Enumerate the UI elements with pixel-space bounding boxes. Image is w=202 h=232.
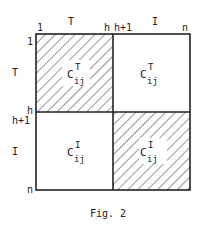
figure-caption: Fig. 2	[90, 208, 126, 219]
left-label-I: I	[12, 146, 18, 157]
block-label-sub: ij	[74, 154, 85, 164]
top-label-1: 1	[37, 22, 43, 33]
block-matrix-figure: 1 T h h+1 I n 1 T h h+1 I n C T ij C T i…	[0, 0, 202, 232]
top-label-h: h	[104, 22, 110, 33]
block-label-base: C	[67, 68, 74, 81]
left-label-T: T	[12, 67, 18, 78]
block-label-sup: T	[75, 62, 81, 72]
left-label-1: 1	[27, 36, 33, 47]
block-label-bottom-left: C I ij	[67, 140, 85, 164]
block-label-sub: ij	[147, 76, 158, 86]
top-label-n: n	[182, 22, 188, 33]
left-label-h-plus-1: h+1	[12, 115, 30, 126]
block-label-sup: T	[148, 62, 154, 72]
block-label-base: C	[67, 146, 74, 159]
top-label-T: T	[68, 16, 74, 27]
block-label-base: C	[140, 68, 147, 81]
block-label-base: C	[140, 146, 147, 159]
block-label-sub: ij	[147, 154, 158, 164]
top-label-h-plus-1: h+1	[114, 22, 132, 33]
block-label-sup: I	[75, 140, 80, 150]
top-label-I: I	[152, 16, 158, 27]
block-label-top-right: C T ij	[140, 62, 158, 86]
left-label-n: n	[27, 184, 33, 195]
block-label-sup: I	[148, 140, 153, 150]
block-label-sub: ij	[74, 76, 85, 86]
